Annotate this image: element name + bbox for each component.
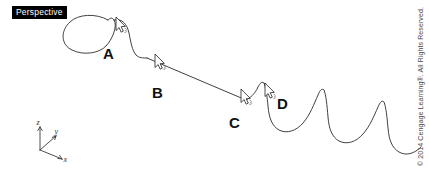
axis-label-z: z bbox=[36, 118, 41, 127]
axis-label-y: y bbox=[54, 127, 59, 136]
curve-zigzag-tail-segment bbox=[264, 83, 421, 154]
axis-line-x bbox=[40, 150, 62, 159]
sketch-canvas: zyx bbox=[0, 0, 429, 172]
point-label-b: B bbox=[152, 85, 163, 100]
curve-loop-segment bbox=[63, 15, 108, 53]
curve-group bbox=[63, 15, 421, 154]
copyright-text: © 2014 Cengage Learning®. All Rights Res… bbox=[417, 7, 424, 166]
axis-label-x: x bbox=[63, 155, 68, 164]
cursor-markers bbox=[116, 17, 276, 104]
copyright-notice: © 2014 Cengage Learning®. All Rights Res… bbox=[412, 0, 428, 172]
curve-crest-segment bbox=[106, 18, 115, 46]
point-label-c: C bbox=[229, 115, 240, 130]
point-label-d: D bbox=[277, 96, 288, 111]
cursor-arrow-icon-b bbox=[155, 54, 166, 69]
perspective-viewport: zyx Perspective ABCD © 2014 Cengage Lear… bbox=[0, 0, 429, 172]
axis-line-y bbox=[40, 136, 56, 150]
axis-triad: zyx bbox=[36, 118, 68, 165]
point-label-a: A bbox=[103, 46, 114, 61]
viewport-label: Perspective bbox=[12, 6, 67, 19]
